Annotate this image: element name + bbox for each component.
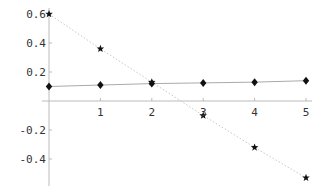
- y-tick-label: -0.4: [20, 153, 47, 166]
- x-tick-label: 1: [97, 106, 104, 119]
- diamond-marker: [149, 80, 155, 88]
- y-tick-label: 0.4: [26, 37, 46, 50]
- series-markers: [45, 10, 310, 181]
- x-tick-label: 5: [303, 106, 310, 119]
- x-tick-label: 3: [200, 106, 207, 119]
- axes: [42, 8, 312, 186]
- y-tick-label: -0.2: [20, 124, 47, 137]
- series-line-diamonds: [49, 81, 306, 87]
- diamond-marker: [200, 79, 206, 87]
- diamond-marker: [97, 81, 103, 89]
- series-line-stars: [49, 14, 306, 178]
- y-tick-label: 0.2: [26, 66, 46, 79]
- tick-labels: 123450.60.40.2-0.2-0.4: [20, 8, 310, 166]
- x-tick-label: 2: [148, 106, 155, 119]
- star-marker: [251, 143, 259, 150]
- y-tick-label: 0.6: [26, 8, 46, 21]
- star-marker: [302, 174, 310, 181]
- line-chart: 123450.60.40.2-0.2-0.4: [0, 0, 329, 193]
- diamond-marker: [251, 78, 257, 86]
- diamond-marker: [303, 77, 309, 85]
- diamond-marker: [46, 83, 52, 91]
- x-tick-label: 4: [251, 106, 258, 119]
- series-lines: [49, 14, 306, 178]
- star-marker: [97, 45, 105, 52]
